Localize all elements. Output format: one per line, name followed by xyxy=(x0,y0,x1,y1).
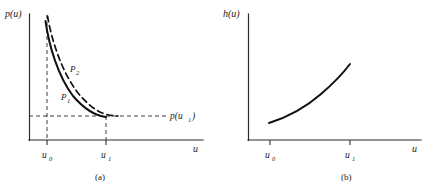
panel-a-label-P2-sub: 2 xyxy=(76,69,80,76)
panel-b-caption: (b) xyxy=(341,172,352,182)
panel-a-plot: p(u) u u 0 u 1 P 2 P 1 xyxy=(0,0,213,190)
panel-a-curve-label-P2: P 2 xyxy=(69,64,80,76)
panel-a-xtick-u1-base: u xyxy=(101,150,106,160)
panel-a-label-P1-sub: 1 xyxy=(67,97,70,104)
panel-a-y-axis-label: p(u) xyxy=(4,8,22,20)
panel-a-caption: (a) xyxy=(95,172,105,182)
panel-a-annotation-base: p(u xyxy=(169,111,183,122)
panel-b-xtick-u0-base: u xyxy=(265,150,270,160)
panel-b-y-axis-label: h(u) xyxy=(223,8,240,20)
panel-a-xtick-u0-sub: 0 xyxy=(49,155,53,162)
panel-a-xtick-u1-sub: 1 xyxy=(108,155,111,162)
panel-b-x-axis-label: u xyxy=(412,143,417,154)
panel-b: h(u) u u 0 u 1 (b) xyxy=(213,0,426,190)
panel-a: p(u) u u 0 u 1 P 2 P 1 xyxy=(0,0,213,190)
panel-a-xtick-label-u1: u 1 xyxy=(101,150,111,162)
figure-container: p(u) u u 0 u 1 P 2 P 1 xyxy=(0,0,426,190)
panel-a-xtick-label-u0: u 0 xyxy=(42,150,53,162)
panel-b-plot: h(u) u u 0 u 1 (b) xyxy=(213,0,426,190)
panel-a-annotation-p-u1: p(u 1 ) xyxy=(169,111,195,123)
panel-a-label-P1-base: P xyxy=(60,92,67,102)
panel-a-annotation-tail: ) xyxy=(191,111,195,122)
panel-b-xtick-u1-base: u xyxy=(345,150,350,160)
panel-a-curve-label-P1: P 1 xyxy=(60,92,70,104)
panel-b-xtick-u0-sub: 0 xyxy=(272,155,276,162)
panel-a-x-axis-label: u xyxy=(193,143,198,154)
panel-b-xtick-label-u1: u 1 xyxy=(345,150,355,162)
panel-b-xtick-u1-sub: 1 xyxy=(352,155,355,162)
panel-b-curve-h xyxy=(269,64,350,123)
panel-a-xtick-u0-base: u xyxy=(42,150,47,160)
panel-a-label-P2-base: P xyxy=(69,64,76,74)
panel-a-annotation-sub: 1 xyxy=(188,116,191,123)
panel-a-curve-P2 xyxy=(48,16,119,116)
panel-b-xtick-label-u0: u 0 xyxy=(265,150,276,162)
